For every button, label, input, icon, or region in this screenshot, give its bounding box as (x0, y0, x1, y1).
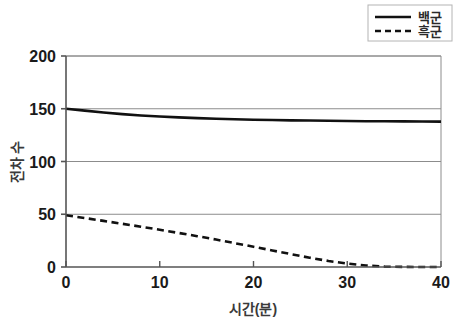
y-axis-tick-labels: 050100150200 (29, 48, 56, 276)
y-tick-label: 0 (47, 259, 56, 276)
y-tick-label: 100 (29, 154, 56, 171)
line-chart: 010203040 050100150200 시간(분) 전차 수 백군 흑군 (0, 0, 464, 326)
legend-label-1: 흑군 (418, 24, 442, 39)
y-tick-label: 200 (29, 48, 56, 65)
chart-container: 010203040 050100150200 시간(분) 전차 수 백군 흑군 (0, 0, 464, 326)
x-axis-title: 시간(분) (229, 301, 277, 317)
legend: 백군 흑군 (368, 5, 452, 41)
y-tick-label: 150 (29, 101, 56, 118)
x-tick-label: 10 (151, 274, 169, 291)
y-tick-label: 50 (38, 206, 56, 223)
x-tick-label: 30 (338, 274, 356, 291)
y-axis-title: 전차 수 (9, 141, 25, 184)
x-axis-tick-labels: 010203040 (62, 274, 450, 291)
x-tick-label: 40 (432, 274, 450, 291)
x-tick-label: 0 (62, 274, 71, 291)
x-tick-label: 20 (245, 274, 263, 291)
legend-label-0: 백군 (418, 10, 442, 25)
